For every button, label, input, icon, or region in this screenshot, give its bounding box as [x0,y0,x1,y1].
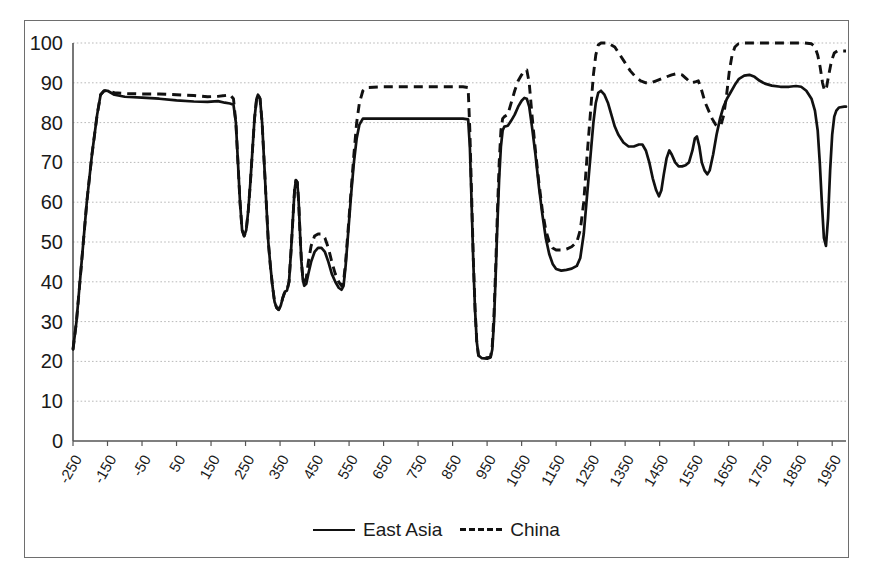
x-axis-tick-label: 1550 [675,452,706,489]
chart-frame: 0102030405060708090100-250-150-505015025… [24,20,849,558]
y-axis-tick-label: 100 [30,32,63,54]
x-axis-tick-label: 550 [334,452,361,482]
chart-legend: East Asia China [25,520,848,539]
x-axis-tick-label: 1350 [606,452,637,489]
x-axis-tick-label: 50 [165,452,188,475]
x-axis-tick-label: 1050 [502,452,533,489]
y-axis-tick-label: 60 [41,191,63,213]
x-axis-tick-label: 750 [403,452,430,482]
y-axis-tick-label: 80 [41,112,63,134]
plot-area: 0102030405060708090100-250-150-505015025… [25,21,848,557]
x-axis-tick-label: 850 [437,452,464,482]
y-axis-tick-label: 90 [41,72,63,94]
x-axis-tick-label: 1650 [709,452,740,489]
x-axis-tick-label: -50 [128,452,154,479]
series-line-east-asia [73,75,846,359]
y-axis-tick-label: 10 [41,390,63,412]
x-axis-tick-label: 150 [196,452,223,482]
x-axis-tick-label: 1250 [571,452,602,489]
x-axis-tick-label: 450 [299,452,326,482]
legend-swatch-solid-icon [313,529,355,531]
y-axis-tick-label: 20 [41,350,63,372]
x-axis-tick-label: 350 [265,452,292,482]
y-axis-tick-label: 40 [41,271,63,293]
legend-label-east-asia: East Asia [363,520,442,539]
line-chart-svg: 0102030405060708090100-250-150-505015025… [25,21,850,559]
legend-item-east-asia[interactable]: East Asia [313,520,442,539]
x-axis-tick-label: 950 [472,452,499,482]
x-axis-tick-label: 650 [368,452,395,482]
x-axis-tick-label: 1950 [813,452,844,489]
series-line-china [73,43,846,358]
legend-label-china: China [510,520,560,539]
x-axis-tick-label: 1750 [744,452,775,489]
y-axis-tick-label: 70 [41,151,63,173]
legend-swatch-dashed-icon [460,528,502,531]
x-axis-tick-label: -250 [55,452,85,487]
y-axis-tick-label: 30 [41,311,63,333]
x-axis-tick-label: 1850 [778,452,809,489]
legend-item-china[interactable]: China [460,520,560,539]
x-axis-tick-label: -150 [90,452,120,487]
y-axis-tick-label: 50 [41,231,63,253]
y-axis-tick-label: 0 [52,430,63,452]
x-axis-tick-label: 1450 [640,452,671,489]
x-axis-tick-label: 250 [230,452,257,482]
x-axis-tick-label: 1150 [537,452,568,488]
